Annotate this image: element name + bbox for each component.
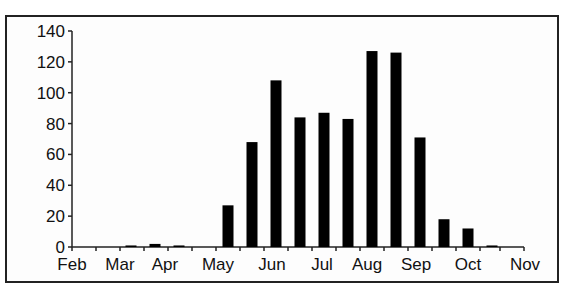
- bar: [150, 244, 161, 247]
- bar: [223, 205, 234, 247]
- y-tick-label: 60: [46, 145, 65, 164]
- bar-chart: 020406080100120140 FebMarAprMayJunJulAug…: [0, 0, 565, 290]
- bar: [174, 245, 185, 247]
- bar: [391, 53, 402, 247]
- x-tick-label: Sep: [401, 255, 431, 274]
- x-axis: FebMarAprMayJunJulAugSepOctNov: [57, 247, 540, 274]
- y-axis: 020406080100120140: [37, 22, 72, 257]
- x-tick-label: Nov: [510, 255, 541, 274]
- x-tick-label: Oct: [455, 255, 482, 274]
- bar-series: [126, 51, 498, 247]
- y-tick-label: 140: [37, 22, 65, 41]
- bar: [487, 245, 498, 247]
- x-tick-label: Feb: [57, 255, 86, 274]
- bar: [319, 113, 330, 247]
- x-tick-label: Jul: [311, 255, 333, 274]
- bar: [463, 228, 474, 247]
- x-tick-label: Jun: [258, 255, 285, 274]
- y-tick-label: 20: [46, 207, 65, 226]
- y-tick-label: 80: [46, 115, 65, 134]
- bar: [343, 119, 354, 247]
- bar: [247, 142, 258, 247]
- bar: [415, 137, 426, 247]
- y-tick-label: 40: [46, 176, 65, 195]
- x-tick-label: Mar: [105, 255, 135, 274]
- x-tick-label: May: [202, 255, 235, 274]
- bar: [295, 117, 306, 247]
- x-tick-label: Aug: [352, 255, 382, 274]
- bar: [367, 51, 378, 247]
- bar: [126, 245, 137, 247]
- bar: [439, 219, 450, 247]
- y-tick-label: 120: [37, 53, 65, 72]
- bar: [271, 80, 282, 247]
- y-tick-label: 100: [37, 84, 65, 103]
- x-tick-label: Apr: [152, 255, 179, 274]
